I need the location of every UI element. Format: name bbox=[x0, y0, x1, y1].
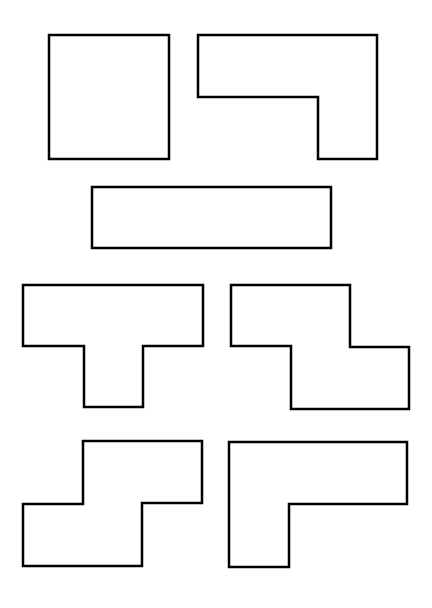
diagram-canvas bbox=[0, 0, 432, 608]
s-shape bbox=[23, 441, 202, 566]
z-shape bbox=[231, 285, 409, 409]
l-shape-bottom bbox=[229, 442, 407, 567]
t-shape bbox=[23, 285, 203, 407]
square-shape bbox=[49, 35, 169, 159]
long-rectangle-shape bbox=[92, 187, 331, 248]
shapes-svg bbox=[0, 0, 432, 608]
l-shape-top bbox=[198, 35, 377, 159]
